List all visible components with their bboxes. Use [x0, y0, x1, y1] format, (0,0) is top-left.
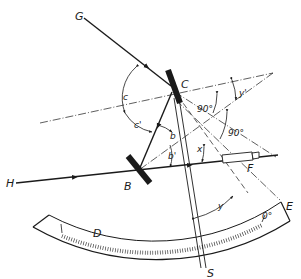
- angle-y: y: [217, 201, 224, 211]
- label-b: B: [124, 180, 132, 193]
- telescope: [222, 152, 259, 163]
- angle-b: b: [170, 131, 176, 141]
- incident-ray-g: [84, 18, 171, 86]
- label-e: E: [286, 200, 293, 213]
- angle-90-upper: 90°: [197, 104, 213, 114]
- extension-lines: [178, 96, 248, 193]
- angle-b-prime: b': [168, 151, 176, 161]
- arc-scale: [33, 202, 290, 260]
- label-g: G: [75, 10, 84, 23]
- label-f: F: [247, 162, 254, 175]
- scale-zero-mark: 0°: [262, 211, 272, 221]
- label-h: H: [6, 177, 14, 190]
- angle-arcs: [122, 67, 236, 218]
- angle-y-prime: y': [238, 88, 247, 98]
- angle-c: c: [123, 92, 128, 102]
- angle-90-lower: 90°: [228, 128, 244, 138]
- angle-x: x: [196, 144, 203, 154]
- label-s: S: [207, 267, 214, 279]
- label-c: C: [181, 78, 189, 91]
- angle-c-prime: c': [134, 120, 141, 130]
- label-d: D: [93, 227, 101, 240]
- sextant-diagram: G H C B F D E S c c' b b' x y y' 90° 90°…: [0, 0, 301, 279]
- index-arm: [174, 98, 206, 268]
- diagram-canvas: G H C B F D E S c c' b b' x y y' 90° 90°…: [0, 0, 301, 279]
